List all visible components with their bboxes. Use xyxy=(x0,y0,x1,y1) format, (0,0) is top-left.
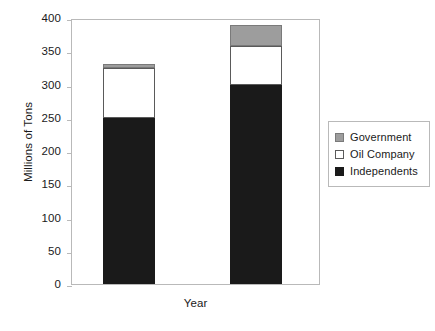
y-tick-label: 0 xyxy=(21,278,61,290)
legend-item-oil-company[interactable]: Oil Company xyxy=(335,146,424,162)
legend-item-independents[interactable]: Independents xyxy=(335,163,424,179)
y-tick-label: 400 xyxy=(21,12,61,24)
y-tick-mark xyxy=(67,53,72,54)
y-tick-label: 200 xyxy=(21,145,61,157)
y-tick-mark xyxy=(67,286,72,287)
y-tick-label: 300 xyxy=(21,79,61,91)
legend-label: Government xyxy=(350,131,412,143)
y-tick-label: 350 xyxy=(21,45,61,57)
y-tick-mark xyxy=(67,186,72,187)
legend: Government Oil Company Independents xyxy=(328,121,430,187)
y-tick-mark xyxy=(67,87,72,88)
y-tick-label: 50 xyxy=(21,245,61,257)
x-axis-title: Year xyxy=(71,297,320,309)
bar-segment-independents-1994[interactable] xyxy=(230,85,282,285)
y-tick-mark xyxy=(67,253,72,254)
bar-segment-government-1994[interactable] xyxy=(230,25,282,46)
y-tick-mark xyxy=(67,120,72,121)
bar-segment-oil-company-1994[interactable] xyxy=(230,46,282,85)
legend-item-government[interactable]: Government xyxy=(335,129,424,145)
bar-segment-government-1990[interactable] xyxy=(103,64,155,67)
plot-area: 400 350 300 250 200 150 100 50 xyxy=(71,19,320,285)
legend-label: Oil Company xyxy=(350,148,415,160)
y-tick-label: 250 xyxy=(21,112,61,124)
independents-swatch-icon xyxy=(335,167,344,176)
bar-segment-independents-1990[interactable] xyxy=(103,118,155,284)
stacked-bar-chart-figure: Millions of Tons 400 350 300 250 200 150 xyxy=(0,0,435,331)
y-tick-label: 150 xyxy=(21,178,61,190)
y-tick-label: 100 xyxy=(21,212,61,224)
y-tick-mark xyxy=(67,220,72,221)
x-tick-label-1994: 1994 xyxy=(216,272,296,284)
y-tick-mark xyxy=(67,153,72,154)
bar-segment-oil-company-1990[interactable] xyxy=(103,68,155,118)
x-tick-label-1990: 1990 xyxy=(89,272,169,284)
government-swatch-icon xyxy=(335,133,344,142)
y-tick-mark xyxy=(67,20,72,21)
legend-label: Independents xyxy=(350,165,418,177)
oil-company-swatch-icon xyxy=(335,150,344,159)
